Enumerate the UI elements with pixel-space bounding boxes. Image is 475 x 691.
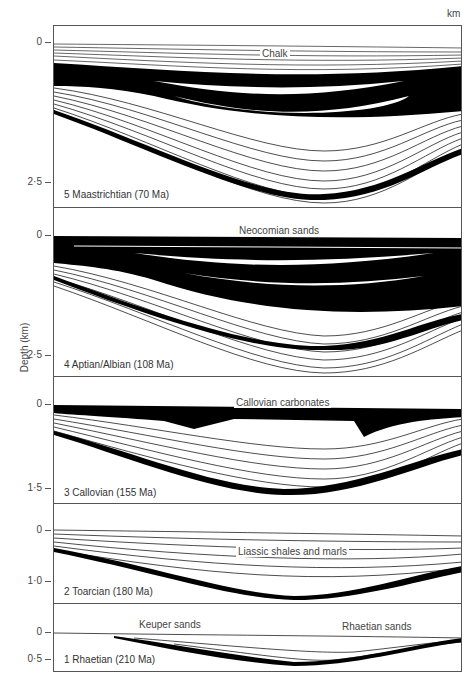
stage-label-rhaetian: 1 Rhaetian (210 Ma) — [64, 654, 155, 665]
panel-rhaetian: Keuper sands Rhaetian sands 1 Rhaetian (… — [53, 603, 462, 672]
formation-label-callovian-carbonates: Callovian carbonates — [234, 397, 331, 408]
panel-callovian: Callovian carbonates 3 Callovian (155 Ma… — [53, 376, 462, 504]
stage-label-maastrichtian: 5 Maastrichtian (70 Ma) — [64, 189, 169, 200]
stage-label-callovian: 3 Callovian (155 Ma) — [64, 487, 156, 498]
tick-0-5: 0·5 — [12, 653, 42, 664]
unit-label: km — [447, 8, 460, 19]
panel-toarcian: Liassic shales and marls 2 Toarcian (180… — [53, 503, 462, 604]
formation-label-rhaetian-sands: Rhaetian sands — [340, 621, 414, 632]
tick-2-5: 2·5 — [12, 176, 42, 187]
y-axis-label: Depth (km) — [19, 318, 30, 378]
tick-0: 0 — [12, 524, 42, 535]
formation-label-chalk: Chalk — [260, 48, 290, 59]
stage-label-toarcian: 2 Toarcian (180 Ma) — [64, 586, 153, 597]
tick-0: 0 — [12, 398, 42, 409]
tick-2-5: 2·5 — [12, 349, 42, 360]
tick-0: 0 — [12, 626, 42, 637]
panel-aptian-albian: Neocomian sands 4 Aptian/Albian (108 Ma) — [53, 207, 462, 377]
tick-1-5: 1·5 — [12, 482, 42, 493]
stage-label-aptian-albian: 4 Aptian/Albian (108 Ma) — [64, 359, 174, 370]
panel-maastrichtian: Chalk 5 Maastrichtian (70 Ma) — [53, 25, 462, 208]
formation-label-neocomian-sands: Neocomian sands — [237, 225, 321, 236]
cross-section-maastrichtian — [54, 26, 462, 208]
tick-0: 0 — [12, 229, 42, 240]
tick-0: 0 — [12, 36, 42, 47]
tick-1-0: 1·0 — [12, 575, 42, 586]
formation-label-keuper-sands: Keuper sands — [137, 619, 203, 630]
formation-label-liassic: Liassic shales and marls — [236, 546, 349, 557]
